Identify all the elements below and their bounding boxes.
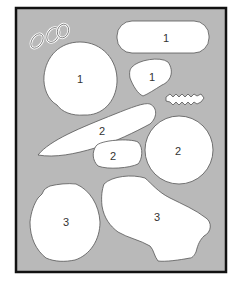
group-label: 2 xyxy=(175,145,181,157)
piece-medium-circle: 2 xyxy=(145,116,213,184)
group-label: 3 xyxy=(154,211,160,223)
group-label: 1 xyxy=(163,32,169,44)
piece-rough-circle: 3 xyxy=(30,184,100,262)
group-label: 1 xyxy=(149,71,155,83)
puzzle-board: 1 1 1 2 2 2 3 3 xyxy=(0,0,234,284)
group-label: 3 xyxy=(63,216,69,228)
piece-small-capsule: 2 xyxy=(93,140,142,168)
group-label: 1 xyxy=(77,73,83,85)
group-label: 2 xyxy=(110,150,116,162)
piece-rounded-rectangle: 1 xyxy=(117,21,209,53)
group-label: 2 xyxy=(99,125,105,137)
